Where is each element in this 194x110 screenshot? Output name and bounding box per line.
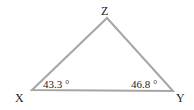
triangle-diagram: Z X Y 43.3 ° 46.8 ° <box>0 0 194 110</box>
vertex-label-z: Z <box>101 5 108 17</box>
vertex-label-y: Y <box>176 92 185 104</box>
triangle-shape <box>0 0 194 110</box>
vertex-label-x: X <box>15 92 24 104</box>
angle-label-x: 43.3 ° <box>43 79 69 90</box>
angle-label-y: 46.8 ° <box>131 79 157 90</box>
